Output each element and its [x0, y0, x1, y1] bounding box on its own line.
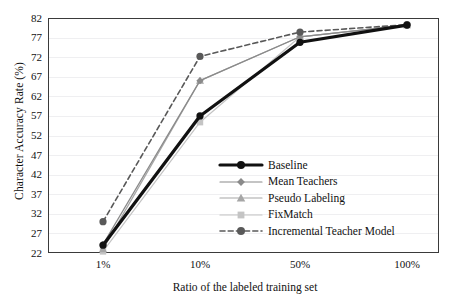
legend-label: Pseudo Labeling [268, 193, 345, 205]
y-tick-label: 72 [8, 52, 42, 63]
legend-marker-icon [218, 190, 264, 206]
y-tick-label: 57 [8, 110, 42, 121]
x-tick-label: 10% [170, 258, 230, 270]
legend-marker-icon [218, 223, 264, 239]
y-tick-label: 27 [8, 228, 42, 239]
y-tick-label: 37 [8, 189, 42, 200]
legend-item-mean-teachers[interactable]: Mean Teachers [218, 174, 395, 191]
y-tick-label: 67 [8, 71, 42, 82]
legend-item-pseudo-labeling[interactable]: Pseudo Labeling [218, 190, 395, 207]
y-tick-label: 22 [8, 248, 42, 259]
y-tick-label: 42 [8, 169, 42, 180]
legend-label: Incremental Teacher Model [268, 226, 395, 238]
y-tick-label: 77 [8, 32, 42, 43]
legend-label: Mean Teachers [268, 176, 338, 188]
legend-item-baseline[interactable]: Baseline [218, 157, 395, 174]
legend-marker-icon [218, 174, 264, 190]
legend-item-incremental-teacher-model[interactable]: Incremental Teacher Model [218, 223, 395, 240]
y-tick-label: 82 [8, 13, 42, 24]
y-tick-label: 47 [8, 150, 42, 161]
x-axis-title: Ratio of the labeled training set [46, 281, 444, 293]
y-tick-label: 32 [8, 208, 42, 219]
legend-marker-icon [218, 157, 264, 173]
x-tick-label: 50% [270, 258, 330, 270]
y-tick-label: 52 [8, 130, 42, 141]
legend-label: FixMatch [268, 209, 313, 221]
y-axis-tick-labels: 22273237424752576267727782 [0, 0, 454, 302]
legend-marker-icon [218, 207, 264, 223]
chart-legend: BaselineMean TeachersPseudo LabelingFixM… [218, 157, 395, 240]
chart-container: Character Accuracy Rate (%) 222732374247… [0, 0, 454, 302]
legend-label: Baseline [268, 160, 308, 172]
legend-item-fixmatch[interactable]: FixMatch [218, 207, 395, 224]
x-tick-label: 100% [377, 258, 437, 270]
x-tick-label: 1% [73, 258, 133, 270]
y-tick-label: 62 [8, 91, 42, 102]
